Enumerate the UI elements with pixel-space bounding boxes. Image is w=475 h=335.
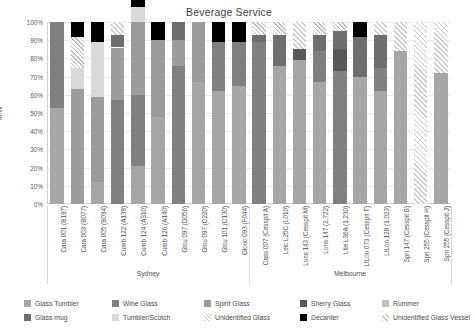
- bar-segment[interactable]: [111, 35, 124, 48]
- bar-column[interactable]: [374, 22, 387, 204]
- legend-item-spirit_glass[interactable]: Spirit Glass: [204, 300, 300, 307]
- bar-column[interactable]: [414, 22, 427, 204]
- bar-column[interactable]: [353, 22, 366, 204]
- bar-segment[interactable]: [50, 22, 63, 108]
- bar-segment[interactable]: [111, 100, 124, 204]
- bar-segment[interactable]: [273, 66, 286, 204]
- legend-swatch-icon: [382, 314, 389, 321]
- bar-segment[interactable]: [172, 66, 185, 204]
- bar-segment[interactable]: [192, 82, 205, 204]
- legend-item-rummer[interactable]: Rummer: [382, 300, 475, 307]
- bar-column[interactable]: [273, 22, 286, 204]
- bar-segment[interactable]: [374, 22, 387, 35]
- bar-segment[interactable]: [313, 82, 326, 204]
- bar-segment[interactable]: [313, 35, 326, 51]
- bar-column[interactable]: [131, 22, 144, 204]
- bar-segment[interactable]: [353, 37, 366, 77]
- bar-segment[interactable]: [50, 108, 63, 204]
- bar-segment[interactable]: [333, 49, 346, 71]
- bar-segment[interactable]: [252, 22, 265, 35]
- bar-segment[interactable]: [91, 42, 104, 97]
- bar-segment[interactable]: [111, 48, 124, 101]
- legend-item-glass_mug[interactable]: Glass mug: [24, 314, 112, 321]
- legend-label: Wine Glass: [123, 300, 158, 307]
- bar-segment[interactable]: [212, 91, 225, 204]
- bar-segment[interactable]: [353, 22, 366, 37]
- bar-segment[interactable]: [212, 42, 225, 91]
- bar-column[interactable]: [434, 22, 447, 204]
- bar-segment[interactable]: [293, 22, 306, 49]
- bar-segment[interactable]: [333, 31, 346, 49]
- bar-segment[interactable]: [313, 51, 326, 82]
- bar-column[interactable]: [50, 22, 63, 204]
- x-tick-label: Glou 101 (C130): [221, 206, 228, 253]
- bar-column[interactable]: [192, 22, 205, 204]
- x-tick-label: Leic L25C (L010): [282, 206, 289, 254]
- bar-segment[interactable]: [434, 73, 447, 204]
- legend-swatch-icon: [204, 300, 211, 307]
- bar-segment[interactable]: [252, 42, 265, 204]
- bar-column[interactable]: [172, 22, 185, 204]
- bar-segment[interactable]: [71, 68, 84, 90]
- legend-item-decanter[interactable]: Decanter: [300, 314, 382, 321]
- bar-column[interactable]: [293, 22, 306, 204]
- bar-segment[interactable]: [71, 22, 84, 37]
- bar-column[interactable]: [111, 22, 124, 204]
- legend-item-unidentified_glass_vessel[interactable]: Unidentified Glass Vessel: [382, 314, 475, 321]
- bar-segment[interactable]: [212, 22, 225, 42]
- bar-segment[interactable]: [434, 22, 447, 73]
- legend-item-glass_tumbler[interactable]: Glass Tumbler: [24, 300, 112, 307]
- bar-column[interactable]: [394, 22, 407, 204]
- bar-segment[interactable]: [374, 35, 387, 68]
- bar-segment[interactable]: [273, 22, 286, 35]
- bar-segment[interactable]: [192, 22, 205, 82]
- bar-segment[interactable]: [374, 91, 387, 204]
- bar-segment[interactable]: [151, 22, 164, 40]
- bar-segment[interactable]: [333, 71, 346, 204]
- bar-segment[interactable]: [71, 37, 84, 68]
- bar-segment[interactable]: [232, 22, 245, 42]
- bar-column[interactable]: [232, 22, 245, 204]
- bar-segment[interactable]: [374, 68, 387, 92]
- bar-column[interactable]: [91, 22, 104, 204]
- bar-column[interactable]: [151, 22, 164, 204]
- bar-segment[interactable]: [131, 0, 144, 7]
- bar-segment[interactable]: [353, 77, 366, 204]
- bar-column[interactable]: [252, 22, 265, 204]
- bar-column[interactable]: [212, 22, 225, 204]
- bar-segment[interactable]: [131, 95, 144, 166]
- bar-segment[interactable]: [131, 166, 144, 204]
- legend-item-unidentified_glass[interactable]: Unidentified Glass: [204, 314, 300, 321]
- bar-segment[interactable]: [91, 22, 104, 42]
- bar-segment[interactable]: [333, 22, 346, 31]
- bar-segment[interactable]: [71, 89, 84, 204]
- bar-column[interactable]: [71, 22, 84, 204]
- bar-segment[interactable]: [131, 7, 144, 22]
- legend-item-sherry_glass[interactable]: Sherry Glass: [300, 300, 382, 307]
- bar-segment[interactable]: [172, 40, 185, 65]
- bar-column[interactable]: [313, 22, 326, 204]
- bar-segment[interactable]: [414, 22, 427, 204]
- bar-column[interactable]: [333, 22, 346, 204]
- bar-segment[interactable]: [232, 86, 245, 204]
- bar-segment[interactable]: [293, 60, 306, 204]
- legend-label: Sherry Glass: [311, 300, 350, 307]
- bar-segment[interactable]: [91, 182, 104, 204]
- bar-segment[interactable]: [394, 51, 407, 204]
- legend-item-tumbler_scotch[interactable]: Tumbler/Scotch: [112, 314, 204, 321]
- bar-segment[interactable]: [273, 35, 286, 66]
- bar-segment[interactable]: [151, 40, 164, 116]
- bar-segment[interactable]: [131, 22, 144, 95]
- legend-item-wine_glass[interactable]: Wine Glass: [112, 300, 204, 307]
- bar-segment[interactable]: [394, 22, 407, 51]
- bar-segment[interactable]: [313, 22, 326, 35]
- legend-swatch-icon: [382, 300, 389, 307]
- bar-segment[interactable]: [91, 97, 104, 183]
- bar-segment[interactable]: [172, 22, 185, 40]
- bar-segment[interactable]: [151, 117, 164, 204]
- bar-segment[interactable]: [111, 22, 124, 35]
- bar-segment[interactable]: [232, 42, 245, 86]
- bar-segment[interactable]: [252, 35, 265, 42]
- bar-segment[interactable]: [293, 49, 306, 60]
